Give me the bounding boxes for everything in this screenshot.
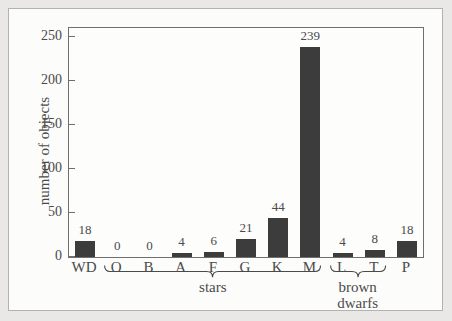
y-tick-mark <box>69 256 75 257</box>
y-tick-label: 250 <box>20 28 62 44</box>
bar-value-label: 4 <box>166 234 198 250</box>
bar <box>300 47 320 258</box>
underbrace-path <box>105 266 321 278</box>
underbrace-path <box>330 266 385 278</box>
bar-value-label: 239 <box>294 28 326 44</box>
bar <box>365 250 385 257</box>
group-underbrace <box>104 265 321 278</box>
bar <box>397 241 417 257</box>
group-label-line: stars <box>104 279 321 295</box>
group-label-line: brown <box>330 279 386 295</box>
y-tick-mark <box>69 36 75 37</box>
y-tick-mark <box>69 124 75 125</box>
bar-value-label: 44 <box>262 199 294 215</box>
bar-value-label: 6 <box>198 233 230 249</box>
figure: number of objects 18004621442394818 WDOB… <box>0 0 452 321</box>
bar <box>204 252 224 257</box>
bar-value-label: 18 <box>391 222 423 238</box>
bar <box>172 253 192 257</box>
bar <box>75 241 95 257</box>
y-tick-label: 150 <box>20 116 62 132</box>
bar-value-label: 8 <box>359 231 391 247</box>
y-tick-mark <box>69 168 75 169</box>
y-tick-label: 0 <box>20 248 62 264</box>
x-tick-label: P <box>390 259 422 276</box>
bar <box>236 239 256 257</box>
x-tick-label: WD <box>68 259 100 276</box>
group-label-line: dwarfs <box>330 295 386 311</box>
bar-value-label: 4 <box>326 234 358 250</box>
y-tick-label: 100 <box>20 160 62 176</box>
bar <box>268 218 288 257</box>
y-tick-mark <box>69 212 75 213</box>
y-tick-mark <box>69 80 75 81</box>
bar-value-label: 0 <box>133 238 165 254</box>
y-tick-label: 50 <box>20 204 62 220</box>
bar-value-label: 21 <box>230 220 262 236</box>
group-label: browndwarfs <box>330 279 386 311</box>
bar <box>333 253 353 257</box>
bar-value-label: 18 <box>69 222 101 238</box>
group-label: stars <box>104 279 321 295</box>
bar-value-label: 0 <box>101 238 133 254</box>
y-tick-label: 200 <box>20 72 62 88</box>
group-underbrace <box>330 265 386 278</box>
plot-area: 18004621442394818 <box>68 27 424 258</box>
